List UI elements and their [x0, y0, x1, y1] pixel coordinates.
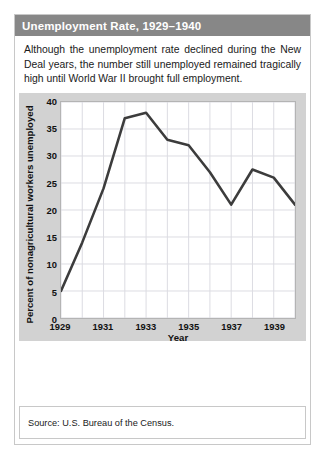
y-tick-label: 25 [47, 177, 57, 188]
caption-text: Although the unemployment rate declined … [24, 43, 301, 87]
x-tick-label: 1937 [221, 321, 242, 332]
caption-block: Although the unemployment rate declined … [15, 36, 310, 93]
y-tick-label: 40 [47, 95, 57, 106]
plot-area [60, 101, 296, 319]
source-block: Source: U.S. Bureau of the Census. [19, 406, 306, 439]
x-tick-label: 1935 [178, 321, 199, 332]
y-tick-label: 30 [47, 150, 57, 161]
x-axis-title: Year [60, 332, 296, 343]
figure-title: Unemployment Rate, 1929–1940 [22, 20, 201, 32]
y-tick-label: 5 [52, 286, 57, 297]
x-tick-label: 1929 [50, 321, 71, 332]
source-text: Source: U.S. Bureau of the Census. [28, 418, 174, 428]
figure-container: Unemployment Rate, 1929–1940 Although th… [14, 14, 311, 445]
line-chart-svg [61, 102, 295, 318]
chart-panel: Percent of nonagricultural workers unemp… [19, 93, 306, 341]
y-tick-label: 20 [47, 204, 57, 215]
x-tick-label: 1931 [92, 321, 113, 332]
y-axis-title: Percent of nonagricultural workers unemp… [20, 93, 38, 336]
y-tick-label: 15 [47, 232, 57, 243]
y-tick-label: 35 [47, 123, 57, 134]
x-tick-label: 1933 [135, 321, 156, 332]
y-axis-tick-labels: 0510152025303540 [38, 101, 59, 319]
figure-header-bar: Unemployment Rate, 1929–1940 [15, 15, 310, 36]
y-tick-label: 10 [47, 259, 57, 270]
x-tick-label: 1939 [264, 321, 285, 332]
y-axis-title-label: Percent of nonagricultural workers unemp… [24, 105, 35, 323]
